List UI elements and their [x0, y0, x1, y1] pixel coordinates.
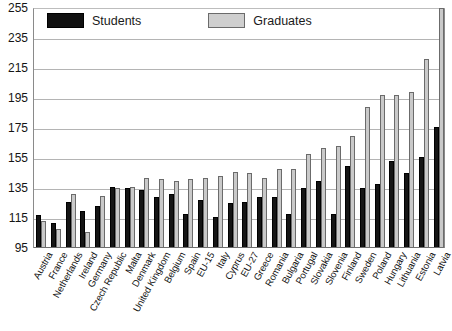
y-axis-tick-label: 95	[0, 242, 28, 254]
bar-graduates	[247, 173, 252, 248]
bar-graduates	[365, 107, 370, 248]
y-axis-tick-label: 195	[0, 92, 28, 104]
legend-label-graduates: Graduates	[253, 14, 311, 28]
bar-graduates	[350, 136, 355, 249]
bar-graduates	[115, 188, 120, 248]
bar-graduates	[277, 169, 282, 249]
y-axis-tick-label: 255	[0, 2, 28, 14]
bar-graduates	[321, 148, 326, 249]
bar-graduates	[188, 179, 193, 248]
bar-graduates	[218, 176, 223, 248]
bar-group	[94, 8, 106, 248]
bar-group	[418, 8, 430, 248]
bar-group	[403, 8, 415, 248]
bar-group	[153, 8, 165, 248]
bar-group	[344, 8, 356, 248]
y-axis-tick-label: 215	[0, 62, 28, 74]
bar-graduates	[336, 146, 341, 248]
bar-group	[123, 8, 135, 248]
bar-graduates	[306, 154, 311, 249]
bar-group	[374, 8, 386, 248]
legend-label-students: Students	[92, 14, 141, 28]
bar-group	[256, 8, 268, 248]
legend-swatch-students-icon	[47, 13, 84, 28]
bar-graduates	[71, 194, 76, 248]
legend-item-students: Students	[47, 13, 141, 28]
bar-group	[168, 8, 180, 248]
bar-group	[226, 8, 238, 248]
bar-graduates	[424, 59, 429, 248]
bar-graduates	[144, 178, 149, 249]
bar-graduates	[380, 95, 385, 248]
legend-swatch-graduates-icon	[208, 13, 245, 28]
bar-graduates	[233, 172, 238, 249]
bar-group	[241, 8, 253, 248]
bar-group	[271, 8, 283, 248]
bar-graduates	[262, 178, 267, 249]
bar-group	[388, 8, 400, 248]
bar-group	[315, 8, 327, 248]
bar-group	[109, 8, 121, 248]
bar-group	[138, 8, 150, 248]
y-axis-tick-label: 135	[0, 182, 28, 194]
bar-graduates	[174, 181, 179, 249]
legend-item-graduates: Graduates	[208, 13, 311, 28]
bar-graduates	[130, 187, 135, 249]
bar-group	[300, 8, 312, 248]
x-axis-labels: AustriaFranceNetherlandsIrelandGermanyCz…	[33, 250, 445, 331]
bar-group	[50, 8, 62, 248]
bar-graduates	[100, 196, 105, 249]
bar-graduates	[159, 179, 164, 248]
bar-group	[65, 8, 77, 248]
bar-graduates	[56, 229, 61, 249]
chart-legend: Students Graduates	[47, 13, 312, 28]
bar-group	[182, 8, 194, 248]
bar-graduates	[203, 178, 208, 249]
bar-group	[197, 8, 209, 248]
y-axis-tick-label: 155	[0, 152, 28, 164]
bar-graduates	[439, 8, 444, 248]
y-axis-tick-label: 115	[0, 212, 28, 224]
bar-group	[432, 8, 444, 248]
bar-series-container	[34, 9, 444, 248]
y-axis-tick-label: 175	[0, 122, 28, 134]
bar-graduates	[291, 169, 296, 249]
bar-group	[359, 8, 371, 248]
plot-area	[33, 8, 445, 248]
bar-group	[285, 8, 297, 248]
x-axis-line	[34, 247, 444, 249]
bar-graduates	[394, 95, 399, 248]
bar-group	[212, 8, 224, 248]
bar-group	[79, 8, 91, 248]
bar-graduates	[41, 221, 46, 248]
bar-group	[329, 8, 341, 248]
y-axis-tick-label: 235	[0, 32, 28, 44]
bar-graduates	[409, 92, 414, 248]
bar-group	[35, 8, 47, 248]
